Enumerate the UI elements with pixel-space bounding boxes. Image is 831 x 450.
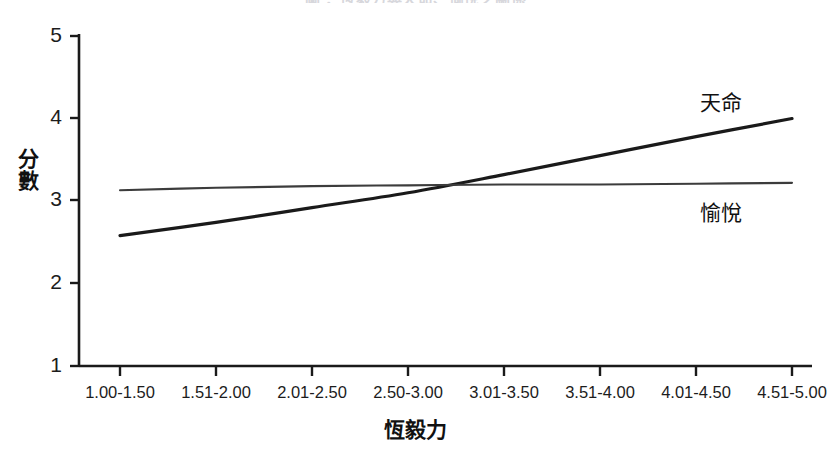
line-chart-figure: 圖 ：恆毅力與天命、愉悅之關係 5 4	[0, 0, 831, 450]
series-line-tianming	[120, 119, 792, 236]
series-label-yuyue: 愉悅	[700, 196, 742, 226]
y-axis-title: 分 數	[10, 148, 46, 193]
x-tick-label-6: 4.01-4.50	[641, 383, 751, 402]
y-axis-title-char-1: 分	[10, 148, 46, 170]
x-tick-label-7: 4.51-5.00	[737, 383, 831, 402]
x-tick-label-1: 1.51-2.00	[161, 383, 271, 402]
x-tick-label-3: 2.50-3.00	[353, 383, 463, 402]
x-axis-title: 恆毅力	[0, 413, 831, 443]
y-tick-label-2: 2	[32, 270, 62, 294]
x-tick-label-4: 3.01-3.50	[449, 383, 559, 402]
series-label-tianming: 天命	[700, 86, 742, 116]
x-tick-label-2: 2.01-2.50	[257, 383, 367, 402]
y-axis-title-char-2: 數	[10, 170, 46, 192]
y-tick-label-4: 4	[32, 105, 62, 129]
x-tick-label-5: 3.51-4.00	[545, 383, 655, 402]
series-line-yuyue	[120, 183, 792, 190]
y-tick-marks	[70, 36, 79, 366]
y-tick-label-1: 1	[32, 353, 62, 377]
series-lines	[120, 119, 792, 236]
x-tick-marks	[120, 366, 792, 376]
x-tick-label-0: 1.00-1.50	[65, 383, 175, 402]
y-tick-label-5: 5	[32, 23, 62, 47]
